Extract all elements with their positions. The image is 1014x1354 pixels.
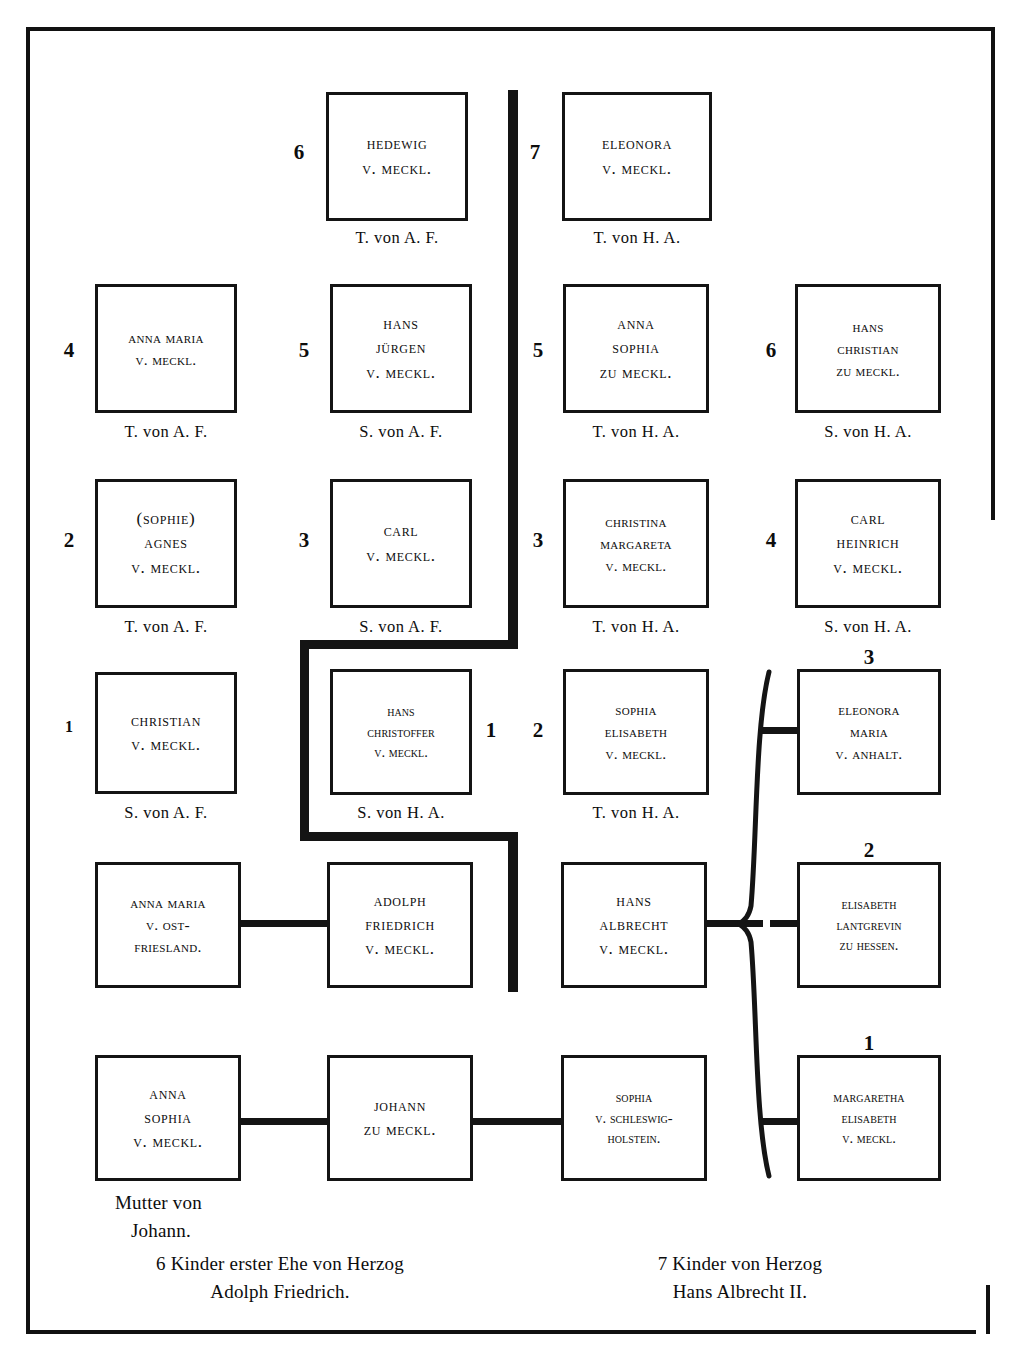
- node-line: Anna Maria: [130, 892, 205, 914]
- node-hans-albrecht[interactable]: Hans Albrecht v. Meckl.: [561, 862, 707, 988]
- caption-sophia-elisabeth: T. von H. A.: [563, 803, 709, 823]
- node-line: v. Meckl.: [366, 361, 436, 385]
- node-line: Carl: [384, 519, 419, 543]
- caption-hedewig: T. von A. F.: [326, 228, 468, 248]
- node-line: Eleonora: [602, 132, 672, 156]
- ordinal-hans-christian: 6: [760, 338, 782, 363]
- right-note-line-1: 7 Kinder von Herzog: [580, 1250, 900, 1278]
- node-line: Margareta: [600, 533, 672, 555]
- ordinal-christina: 3: [527, 528, 549, 553]
- node-line: Sophia: [616, 1087, 653, 1108]
- node-line: Lantgrevin: [836, 915, 901, 936]
- node-hans-christian[interactable]: Hans Christian zu Meckl.: [795, 284, 941, 413]
- node-line: Friedrich: [365, 913, 434, 937]
- node-line: v. Meckl.: [131, 556, 201, 580]
- node-line: zu Meckl.: [364, 1118, 437, 1142]
- ordinal-eleonora: 7: [524, 140, 546, 165]
- right-note-line-2: Hans Albrecht II.: [580, 1278, 900, 1306]
- node-line: Eleonora: [838, 699, 900, 721]
- node-line: v. Meckl.: [362, 157, 432, 181]
- frame-left-border: [26, 27, 30, 1334]
- node-line: v. Meckl.: [136, 349, 197, 371]
- node-line: Johann: [374, 1094, 426, 1118]
- node-hans-juergen[interactable]: Hans Jürgen v. Meckl.: [330, 284, 472, 413]
- node-elisabeth-hessen[interactable]: Elisabeth Lantgrevin zu Hessen.: [797, 862, 941, 988]
- node-line: Agnes: [144, 531, 187, 555]
- node-line: Sophia: [144, 1106, 191, 1130]
- node-line: Hans: [387, 701, 415, 722]
- node-anna-maria-ost[interactable]: Anna Maria v. Ost- Friesland.: [95, 862, 241, 988]
- node-line: Sophia: [615, 699, 657, 721]
- node-line: Elisabeth: [605, 721, 668, 743]
- frame-bottom-border: [26, 1330, 976, 1334]
- node-line: Friesland.: [134, 936, 201, 958]
- connector-elbow-top: [300, 640, 518, 649]
- caption-carl-heinrich: S. von H. A.: [795, 617, 941, 637]
- connector-spine-adolph-upper: [508, 90, 518, 648]
- ordinal-anna-sophia-zu: 5: [527, 338, 549, 363]
- caption-agnes: T. von A. F.: [95, 617, 237, 637]
- node-line: v. Meckl.: [606, 555, 667, 577]
- node-line: zu Hessen.: [839, 935, 898, 956]
- node-line: v. Meckl.: [133, 1130, 203, 1154]
- node-anna-maria[interactable]: Anna Maria v. Meckl.: [95, 284, 237, 413]
- node-line: v. Anhalt.: [836, 743, 903, 765]
- node-eleonora[interactable]: Eleonora v. Meckl.: [562, 92, 712, 221]
- node-hedewig[interactable]: Hedewig v. Meckl.: [326, 92, 468, 221]
- node-line: v. Meckl.: [599, 937, 669, 961]
- caption-christina: T. von H. A.: [563, 617, 709, 637]
- ordinal-carl-heinrich: 4: [760, 528, 782, 553]
- genealogy-chart: 6 Hedewig v. Meckl. T. von A. F. 7 Eleon…: [0, 0, 1014, 1354]
- caption-hans-christian: S. von H. A.: [795, 422, 941, 442]
- node-carl-heinrich[interactable]: Carl Heinrich v. Meckl.: [795, 479, 941, 608]
- node-sophia-elisabeth[interactable]: Sophia Elisabeth v. Meckl.: [563, 669, 709, 795]
- node-line: Margaretha: [833, 1087, 904, 1108]
- caption-carl: S. von A. F.: [330, 617, 472, 637]
- node-line: v. Meckl.: [842, 1128, 896, 1149]
- node-adolph-friedrich[interactable]: Adolph Friedrich v. Meckl.: [327, 862, 473, 988]
- ordinal-margaretha: 1: [858, 1031, 880, 1056]
- node-line: Christoffer: [367, 722, 434, 743]
- caption-christian: S. von A. F.: [95, 803, 237, 823]
- node-line: Anna: [149, 1082, 186, 1106]
- node-line: Hedewig: [367, 132, 428, 156]
- node-hans-christoffer[interactable]: Hans Christoffer v. Meckl.: [330, 669, 472, 795]
- left-note-line-1: 6 Kinder erster Ehe von Herzog: [100, 1250, 460, 1278]
- mutter-line-2: Johann.: [115, 1217, 202, 1245]
- caption-eleonora: T. von H. A.: [562, 228, 712, 248]
- caption-anna-maria: T. von A. F.: [95, 422, 237, 442]
- node-line: v. Meckl.: [366, 544, 436, 568]
- node-line: Carl: [851, 507, 886, 531]
- ordinal-elisabeth-hessen: 2: [858, 838, 880, 863]
- ordinal-carl: 3: [293, 528, 315, 553]
- node-christina[interactable]: Christina Margareta v. Meckl.: [563, 479, 709, 608]
- mutter-line-1: Mutter von: [115, 1189, 202, 1217]
- node-line: Sophia: [612, 336, 659, 360]
- node-johann[interactable]: Johann zu Meckl.: [327, 1055, 473, 1181]
- node-eleonora-maria[interactable]: Eleonora Maria v. Anhalt.: [797, 669, 941, 795]
- consorts-brace: [735, 668, 785, 1180]
- node-anna-sophia-v[interactable]: Anna Sophia v. Meckl.: [95, 1055, 241, 1181]
- node-christian[interactable]: Christian v. Meckl.: [95, 672, 237, 794]
- node-line: Albrecht: [600, 913, 669, 937]
- node-line: Elisabeth: [841, 1108, 896, 1129]
- caption-hans-juergen: S. von A. F.: [330, 422, 472, 442]
- ordinal-eleonora-maria: 3: [858, 645, 880, 670]
- marriage-bar-annamaria-adolph: [235, 920, 327, 927]
- node-line: v. Meckl.: [606, 743, 667, 765]
- node-anna-sophia-zu[interactable]: Anna Sophia zu Meckl.: [563, 284, 709, 413]
- mutter-von-johann-note: Mutter von Johann.: [115, 1189, 202, 1244]
- node-line: v. Ost-: [146, 914, 190, 936]
- node-line: Holstein.: [607, 1128, 660, 1149]
- node-line: Christina: [605, 511, 666, 533]
- ordinal-agnes: 2: [58, 528, 80, 553]
- node-sophia-schleswig[interactable]: Sophia v. Schleswig- Holstein.: [561, 1055, 707, 1181]
- connector-spine-adolph-lower: [508, 832, 518, 992]
- node-line: Hans: [852, 316, 883, 338]
- node-agnes[interactable]: (Sophie) Agnes v. Meckl.: [95, 479, 237, 608]
- node-line: Christian: [837, 338, 898, 360]
- node-carl[interactable]: Carl v. Meckl.: [330, 479, 472, 608]
- node-line: v. Meckl.: [374, 742, 428, 763]
- node-margaretha[interactable]: Margaretha Elisabeth v. Meckl.: [797, 1055, 941, 1181]
- frame-top-border: [26, 27, 994, 31]
